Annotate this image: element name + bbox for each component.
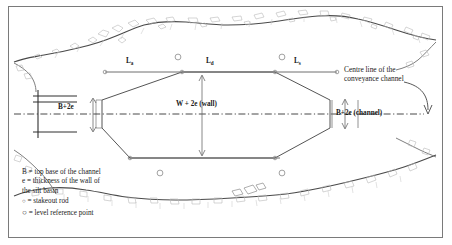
legend-line-e: e = thickness of the wall of xyxy=(22,177,101,186)
label-length-ld: Ld xyxy=(206,57,214,67)
right-terrain xyxy=(396,42,436,157)
structure-baselines xyxy=(105,72,337,158)
silt-basin-outline xyxy=(96,72,330,158)
annotation-centre-line-row2: conveyance channel xyxy=(344,75,404,84)
callout-arrow xyxy=(404,82,432,114)
legend-key-stakeout-rod: ○ = stakeout rod xyxy=(22,197,101,206)
legend-key-level-reference-point: ○ = level reference point xyxy=(22,208,101,218)
legend-key-stakeout-rod-label: = stakeout rod xyxy=(27,197,68,205)
label-length-la: La xyxy=(126,57,133,67)
legend-key-level-reference-point-label: = level reference point xyxy=(29,209,94,217)
level-reference-marker xyxy=(279,170,285,176)
level-reference-marker xyxy=(175,54,181,60)
label-b-plus-2e-channel: B+2e (channel) xyxy=(336,109,382,117)
diagram-canvas: La Ld Ls B+2e W + 2e (wall) B+2e (channe… xyxy=(0,0,452,245)
level-reference-marker xyxy=(157,170,163,176)
label-length-ls: Ls xyxy=(294,57,301,67)
legend: B = top base of the channel e = thicknes… xyxy=(22,168,101,219)
label-b-plus-2e-left: B+2e xyxy=(58,103,74,111)
top-terrain xyxy=(14,10,436,62)
level-reference-point-icon: ○ xyxy=(22,208,27,217)
level-reference-marker xyxy=(279,54,285,60)
legend-line-e2: the silt basin xyxy=(22,187,101,196)
dimension-arrows xyxy=(90,75,358,156)
label-w-plus-2e-wall: W + 2e (wall) xyxy=(176,100,217,108)
annotation-centre-line: Centre line of the conveyance channel xyxy=(344,66,404,83)
legend-line-b: B = top base of the channel xyxy=(22,168,101,177)
stakeout-rod-icon: ○ xyxy=(22,198,26,204)
